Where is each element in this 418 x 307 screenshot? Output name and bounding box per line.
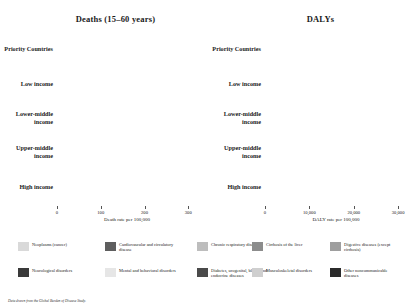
x-axis-tick [398, 206, 399, 209]
legend-item[interactable]: Neurological disorders [18, 268, 72, 277]
bar-row: Lower-middle income [57, 101, 197, 135]
plot-area-deaths: Priority CountriesLow incomeLower-middle… [57, 32, 197, 204]
plot-area-dalys: Priority CountriesLow incomeLower-middle… [265, 32, 407, 204]
legend-swatch [330, 268, 341, 277]
category-label: High income [0, 183, 53, 191]
panel-dalys: DALYs Priority CountriesLow incomeLower-… [209, 0, 418, 232]
legend-swatch [252, 268, 263, 277]
x-axis-deaths: Death rate per 100,000 0100200300 [57, 206, 197, 232]
category-label: Lower-middle income [0, 110, 53, 125]
legend-swatch [105, 242, 116, 251]
legend-label: Neurological disorders [32, 268, 72, 273]
bar-row: Upper-middle income [57, 135, 197, 169]
legend-item[interactable]: Mental and behavioral disorders [105, 268, 176, 277]
x-axis-tick-label: 300 [185, 210, 192, 215]
legend-item[interactable]: Chronic respiratory disease [197, 242, 259, 251]
panel-title-deaths: Deaths (15–60 years) [0, 14, 209, 24]
category-label: Priority Countries [206, 45, 261, 53]
legend-label: Other noncommunicable diseases [344, 268, 402, 279]
legend-label: Cirrhosis of the liver [266, 242, 302, 247]
legend-swatch [105, 268, 116, 277]
legend-item[interactable]: Cardiovascular and circulatory disease [105, 242, 177, 253]
x-axis-tick-label: 10,000 [303, 210, 316, 215]
x-axis-tick [309, 206, 310, 209]
bar-row: Upper-middle income [265, 135, 407, 169]
category-label: Priority Countries [0, 45, 53, 53]
x-axis-title: DALY rate per 100,000 [265, 217, 407, 222]
legend-item[interactable]: Musculoskeletal disorders [252, 268, 312, 277]
category-label: High income [206, 183, 261, 191]
category-label: Low income [0, 80, 53, 88]
bar-row: Priority Countries [57, 32, 197, 66]
x-axis-tick-label: 100 [97, 210, 104, 215]
chart-legend: Neoplasms (cancer)Cardiovascular and cir… [0, 236, 418, 294]
category-label: Lower-middle income [206, 110, 261, 125]
legend-item[interactable]: Other noncommunicable diseases [330, 268, 402, 279]
x-axis-tick [57, 206, 58, 209]
x-axis-tick [188, 206, 189, 209]
x-axis-tick-label: 30,000 [392, 210, 405, 215]
legend-item[interactable]: Neoplasms (cancer) [18, 242, 67, 251]
x-axis-tick-label: 20,000 [347, 210, 360, 215]
bar-row: Priority Countries [265, 32, 407, 66]
x-axis-tick-label: 0 [56, 210, 58, 215]
x-axis-title: Death rate per 100,000 [57, 217, 197, 222]
x-axis-dalys: DALY rate per 100,000 010,00020,00030,00… [265, 206, 407, 232]
legend-label: Neoplasms (cancer) [32, 242, 67, 247]
x-axis-tick [354, 206, 355, 209]
legend-label: Musculoskeletal disorders [266, 268, 312, 273]
bar-row: High income [265, 170, 407, 204]
chart-page: Deaths (15–60 years) Priority CountriesL… [0, 0, 418, 307]
category-label: Upper-middle income [0, 145, 53, 160]
bar-rows-dalys: Priority CountriesLow incomeLower-middle… [265, 32, 407, 204]
x-axis-tick-label: 200 [141, 210, 148, 215]
legend-swatch [197, 268, 208, 277]
legend-swatch [18, 242, 29, 251]
bar-row: Lower-middle income [265, 101, 407, 135]
legend-swatch [197, 242, 208, 251]
legend-swatch [252, 242, 263, 251]
panel-deaths: Deaths (15–60 years) Priority CountriesL… [0, 0, 209, 232]
x-axis-tick [265, 206, 266, 209]
legend-swatch [330, 242, 341, 251]
category-label: Upper-middle income [206, 145, 261, 160]
bar-row: Low income [57, 66, 197, 100]
x-axis-tick [145, 206, 146, 209]
legend-item[interactable]: Cirrhosis of the liver [252, 242, 302, 251]
chart-footnote: Data drawn from the Global Burden of Dis… [8, 299, 408, 303]
bar-row: Low income [265, 66, 407, 100]
panel-title-dalys: DALYs [209, 14, 418, 24]
legend-label: Mental and behavioral disorders [119, 268, 176, 273]
legend-label: Digestive diseases (except cirrhosis) [344, 242, 402, 253]
x-axis-tick [101, 206, 102, 209]
bar-row: High income [57, 170, 197, 204]
bar-rows-deaths: Priority CountriesLow incomeLower-middle… [57, 32, 197, 204]
category-label: Low income [206, 80, 261, 88]
x-axis-tick-label: 0 [264, 210, 266, 215]
legend-item[interactable]: Digestive diseases (except cirrhosis) [330, 242, 402, 253]
legend-swatch [18, 268, 29, 277]
legend-label: Cardiovascular and circulatory disease [119, 242, 177, 253]
